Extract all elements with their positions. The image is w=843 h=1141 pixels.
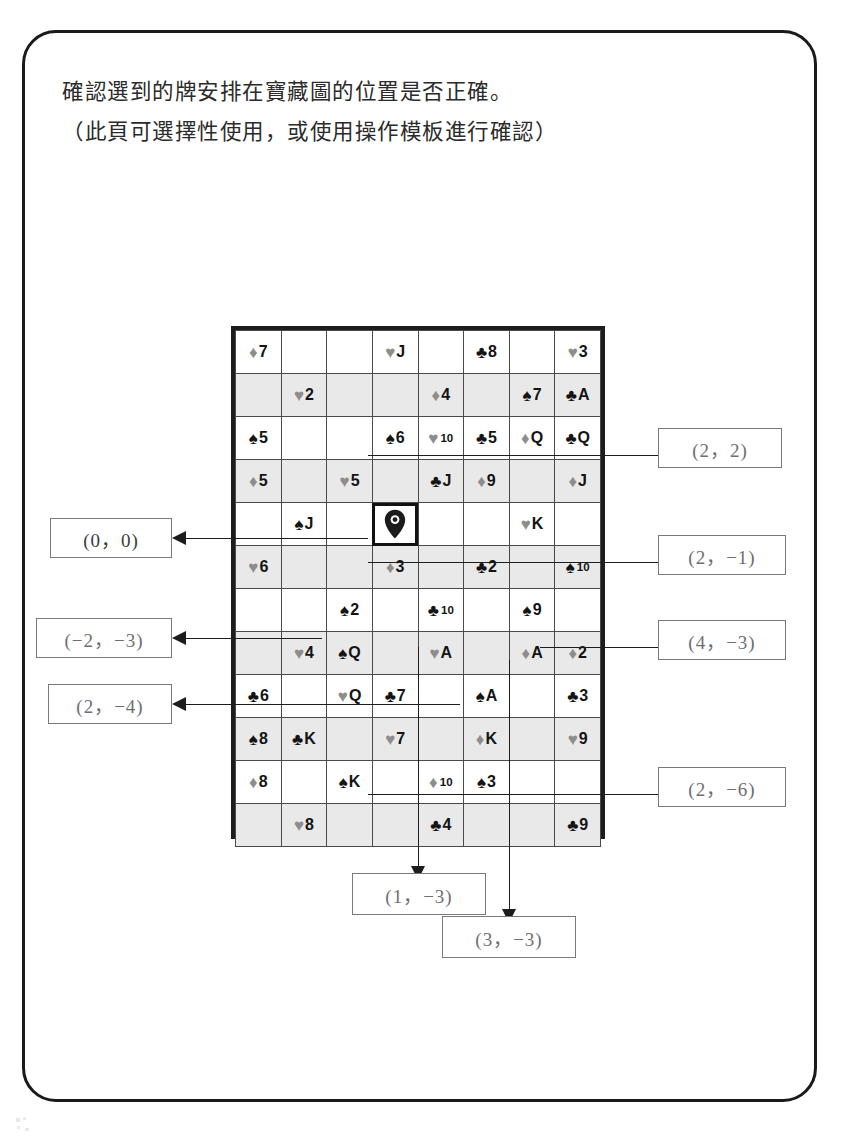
grid-cell-card[interactable]: ♣7 [372,675,418,718]
grid-cell-card[interactable]: ♦4 [418,374,464,417]
grid-cell-empty[interactable] [327,417,373,460]
grid-cell-empty[interactable] [372,460,418,503]
grid-cell-card[interactable]: ♦8 [236,761,282,804]
callout-2-neg4[interactable]: (2，−4) [48,684,172,724]
grid-cell-card[interactable]: ♣6 [236,675,282,718]
grid-cell-empty[interactable] [464,503,510,546]
grid-cell-empty[interactable] [281,675,327,718]
grid-cell-empty[interactable] [418,718,464,761]
callout-3-neg3[interactable]: (3，−3) [442,916,576,958]
grid-cell-empty[interactable] [281,460,327,503]
grid-cell-empty[interactable] [236,374,282,417]
grid-cell-card[interactable]: ♠3 [464,761,510,804]
grid-cell-empty[interactable] [372,804,418,847]
grid-cell-card[interactable]: ♠Q [327,632,373,675]
grid-cell-empty[interactable] [281,417,327,460]
grid-cell-empty[interactable] [464,589,510,632]
grid-cell-card[interactable]: ♦5 [236,460,282,503]
callout-2-2[interactable]: (2，2) [658,428,782,468]
grid-cell-card[interactable]: ♠8 [236,718,282,761]
grid-cell-empty[interactable] [327,374,373,417]
grid-cell-card[interactable]: ♦K [464,718,510,761]
grid-cell-empty[interactable] [464,804,510,847]
callout-2-neg6[interactable]: (2，−6) [658,767,786,807]
grid-cell-empty[interactable] [236,503,282,546]
grid-cell-card[interactable]: ♥2 [281,374,327,417]
grid-cell-empty[interactable] [281,331,327,374]
grid-cell-card[interactable]: ♣10 [418,589,464,632]
grid-cell-empty[interactable] [509,761,555,804]
grid-cell-card[interactable]: ♦9 [464,460,510,503]
grid-cell-empty[interactable] [509,804,555,847]
grid-cell-card[interactable]: ♥A [418,632,464,675]
callout-neg2-neg3[interactable]: (−2，−3) [36,618,172,658]
grid-cell-card[interactable]: ♦A [509,632,555,675]
grid-cell-card[interactable]: ♣4 [418,804,464,847]
grid-cell-empty[interactable] [236,804,282,847]
grid-cell-empty[interactable] [281,761,327,804]
grid-cell-card[interactable]: ♥8 [281,804,327,847]
grid-cell-empty[interactable] [509,460,555,503]
grid-cell-empty[interactable] [372,761,418,804]
grid-cell-empty[interactable] [372,589,418,632]
callout-4-neg3[interactable]: (4，−3) [658,620,786,660]
grid-cell-card[interactable]: ♠K [327,761,373,804]
grid-cell-card[interactable]: ♠6 [372,417,418,460]
grid-cell-empty[interactable] [327,804,373,847]
callout-origin[interactable]: (0，0) [50,518,172,558]
grid-cell-card[interactable]: ♠2 [327,589,373,632]
callout-1-neg3[interactable]: (1，−3) [352,873,486,915]
grid-cell-marker[interactable] [372,503,418,546]
grid-cell-card[interactable]: ♦10 [418,761,464,804]
grid-cell-card[interactable]: ♦J [555,460,601,503]
grid-cell-card[interactable]: ♣2 [464,546,510,589]
grid-cell-empty[interactable] [372,632,418,675]
grid-cell-card[interactable]: ♣K [281,718,327,761]
grid-cell-card[interactable]: ♥7 [372,718,418,761]
grid-cell-card[interactable]: ♣3 [555,675,601,718]
grid-cell-card[interactable]: ♥6 [236,546,282,589]
grid-cell-empty[interactable] [555,589,601,632]
grid-cell-card[interactable]: ♠5 [236,417,282,460]
grid-cell-empty[interactable] [509,546,555,589]
grid-cell-card[interactable]: ♥3 [555,331,601,374]
grid-cell-card[interactable]: ♦7 [236,331,282,374]
callout-2-neg1[interactable]: (2，−1) [658,535,786,575]
grid-cell-card[interactable]: ♥9 [555,718,601,761]
grid-cell-card[interactable]: ♥5 [327,460,373,503]
grid-cell-card[interactable]: ♥K [509,503,555,546]
grid-cell-card[interactable]: ♣J [418,460,464,503]
grid-cell-empty[interactable] [509,718,555,761]
grid-cell-card[interactable]: ♣5 [464,417,510,460]
grid-cell-card[interactable]: ♠10 [555,546,601,589]
grid-cell-card[interactable]: ♠A [464,675,510,718]
grid-cell-card[interactable]: ♥10 [418,417,464,460]
grid-cell-empty[interactable] [418,546,464,589]
grid-cell-empty[interactable] [555,761,601,804]
grid-cell-card[interactable]: ♠J [281,503,327,546]
grid-cell-empty[interactable] [327,546,373,589]
grid-cell-empty[interactable] [509,331,555,374]
grid-cell-empty[interactable] [418,331,464,374]
grid-cell-card[interactable]: ♣8 [464,331,510,374]
grid-cell-card[interactable]: ♣A [555,374,601,417]
grid-cell-empty[interactable] [418,503,464,546]
grid-cell-card[interactable]: ♦2 [555,632,601,675]
grid-cell-empty[interactable] [327,718,373,761]
grid-cell-card[interactable]: ♥Q [327,675,373,718]
grid-cell-card[interactable]: ♦Q [509,417,555,460]
grid-cell-card[interactable]: ♣Q [555,417,601,460]
grid-cell-empty[interactable] [236,589,282,632]
grid-cell-empty[interactable] [327,331,373,374]
grid-cell-empty[interactable] [509,675,555,718]
grid-cell-empty[interactable] [327,503,373,546]
grid-cell-empty[interactable] [372,374,418,417]
grid-cell-empty[interactable] [281,546,327,589]
grid-cell-empty[interactable] [464,374,510,417]
grid-cell-card[interactable]: ♣9 [555,804,601,847]
grid-cell-empty[interactable] [281,589,327,632]
grid-cell-empty[interactable] [418,675,464,718]
grid-cell-card[interactable]: ♥J [372,331,418,374]
grid-cell-card[interactable]: ♠9 [509,589,555,632]
grid-cell-card[interactable]: ♠7 [509,374,555,417]
